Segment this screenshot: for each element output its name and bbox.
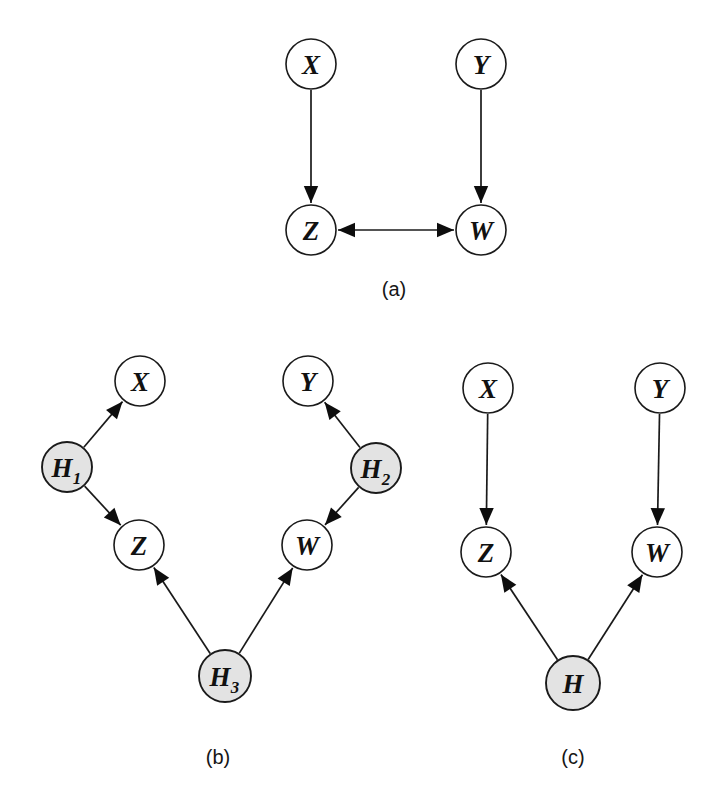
edge-a_X-to-a_Z-arrowhead — [304, 186, 318, 203]
edge-a_W-to-a_Z — [338, 223, 454, 237]
panel-caption-b: (b) — [206, 746, 230, 768]
node-c_Z[interactable]: Z — [461, 527, 511, 577]
node-b_W[interactable]: W — [282, 520, 332, 570]
node-c_X[interactable]: X — [463, 363, 513, 413]
edge-a_Y-to-a_W — [474, 90, 488, 203]
edge-a_W-to-a_Z-arrowhead-reverse — [437, 223, 454, 237]
node-label-b_Y: Y — [300, 367, 319, 397]
panel-a: XYZW(a) — [286, 39, 506, 300]
node-label-a_X: X — [301, 50, 321, 80]
figure-canvas: XYZW(a)XYH1H2ZWH3(b)XYZWH(c) — [0, 0, 728, 807]
node-label-a_Y: Y — [473, 50, 492, 80]
node-a_W[interactable]: W — [456, 205, 506, 255]
edge-b_H1-to-b_X-arrowhead — [106, 402, 122, 420]
edge-c_H-to-c_W — [588, 575, 642, 660]
node-a_X[interactable]: X — [286, 39, 336, 89]
edge-b_H3-to-b_W — [239, 568, 292, 653]
edge-b_H3-to-b_W-arrowhead — [278, 568, 293, 586]
node-a_Y[interactable]: Y — [456, 39, 506, 89]
edge-a_Y-to-a_W-arrowhead — [474, 186, 488, 203]
edge-b_H3-to-b_Z-arrowhead — [154, 568, 169, 586]
node-label-a_W: W — [469, 216, 495, 246]
node-label-b_W: W — [295, 531, 321, 561]
edge-c_H-to-c_Z — [501, 574, 558, 659]
node-b_H1[interactable]: H1 — [42, 442, 92, 492]
edge-b_H2-to-b_Y — [325, 402, 360, 447]
edge-c_H-to-c_W-arrowhead — [627, 575, 642, 593]
node-sublabel-b_H3: 3 — [230, 678, 240, 697]
node-b_X[interactable]: X — [115, 356, 165, 406]
node-b_Y[interactable]: Y — [283, 356, 333, 406]
edge-b_H2-to-b_W — [325, 487, 359, 525]
node-c_Y[interactable]: Y — [635, 363, 685, 413]
panel-caption-a: (a) — [382, 278, 406, 300]
edge-b_H3-to-b_Z — [154, 568, 210, 654]
node-label-c_Z: Z — [477, 538, 495, 568]
node-label-b_H1: H — [50, 453, 73, 483]
edge-b_H2-to-b_Y-arrowhead — [325, 402, 341, 420]
panel-c: XYZWH(c) — [461, 363, 685, 768]
node-sublabel-b_H1: 1 — [73, 469, 82, 488]
node-label-b_X: X — [130, 367, 150, 397]
panel-b: XYH1H2ZWH3(b) — [42, 356, 401, 768]
node-label-c_W: W — [645, 538, 671, 568]
panel-caption-c: (c) — [561, 746, 584, 768]
edge-c_H-to-c_Z-arrowhead — [501, 574, 516, 592]
node-b_Z[interactable]: Z — [114, 520, 164, 570]
edge-b_H1-to-b_X — [84, 402, 123, 448]
edge-c_X-to-c_Z-arrowhead — [479, 508, 493, 525]
node-label-b_Z: Z — [130, 531, 148, 561]
node-a_Z[interactable]: Z — [286, 205, 336, 255]
node-b_H2[interactable]: H2 — [351, 443, 401, 493]
node-c_W[interactable]: W — [632, 527, 682, 577]
edge-b_H1-to-b_Z — [85, 486, 121, 525]
edge-a_W-to-a_Z-arrowhead — [338, 223, 355, 237]
node-b_H3[interactable]: H3 — [199, 650, 251, 702]
edge-a_X-to-a_Z — [304, 90, 318, 203]
edge-c_Y-to-c_W-arrowhead — [651, 508, 665, 525]
node-label-a_Z: Z — [302, 216, 320, 246]
node-label-c_H: H — [561, 669, 584, 699]
edge-c_X-to-c_Z — [479, 414, 493, 525]
node-label-b_H2: H — [359, 454, 382, 484]
node-sublabel-b_H2: 2 — [381, 470, 391, 489]
node-label-c_Y: Y — [652, 374, 671, 404]
causal-diagram-figure: XYZW(a)XYH1H2ZWH3(b)XYZWH(c) — [0, 0, 728, 807]
edge-c_Y-to-c_W — [651, 414, 665, 525]
node-c_H[interactable]: H — [546, 656, 600, 710]
node-label-b_H3: H — [208, 662, 231, 692]
node-label-c_X: X — [478, 374, 498, 404]
